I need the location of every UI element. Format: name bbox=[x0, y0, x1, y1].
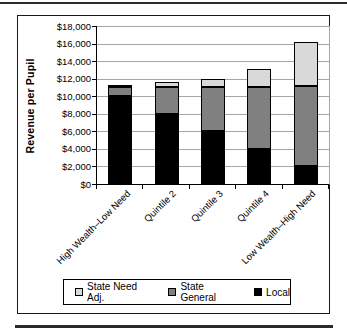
bar-segment-state-general-quintile-4 bbox=[247, 87, 271, 149]
legend-item-state-general: State General bbox=[168, 281, 242, 303]
y-tick-mark bbox=[92, 149, 96, 150]
y-tick-label: $0 bbox=[31, 179, 91, 190]
y-tick-mark bbox=[92, 79, 96, 80]
x-tick-mark bbox=[235, 185, 236, 189]
bar-segment-state-general-low-wealth-high-need bbox=[294, 86, 318, 166]
x-category-label-quintile-3: Quintile 3 bbox=[189, 188, 225, 224]
y-tick-label: $6,000 bbox=[31, 126, 91, 137]
y-tick-mark bbox=[92, 26, 96, 27]
x-category-label-quintile-4: Quintile 4 bbox=[235, 188, 271, 224]
bar-segment-state-general-high-wealth-low-need bbox=[108, 87, 132, 97]
x-category-label-high-wealth-low-need: High Wealth–Low Need bbox=[54, 188, 132, 266]
top-rule bbox=[0, 2, 347, 4]
legend-item-local: Local bbox=[254, 287, 290, 298]
y-tick-label: $16,000 bbox=[31, 38, 91, 49]
bar-segment-local-quintile-3 bbox=[201, 131, 225, 184]
bar-segment-local-low-wealth-high-need bbox=[294, 166, 318, 184]
x-tick-mark bbox=[142, 185, 143, 189]
bar-segment-state-general-quintile-3 bbox=[201, 87, 225, 132]
bar-segment-state-need-adj-high-wealth-low-need bbox=[108, 85, 132, 87]
bar-segment-state-need-adj-quintile-4 bbox=[247, 69, 271, 87]
local-swatch-icon bbox=[254, 288, 262, 296]
figure-page: Revenue per Pupil State Need Adj. State … bbox=[0, 0, 347, 336]
y-tick-mark bbox=[92, 96, 96, 97]
bar-segment-local-quintile-2 bbox=[155, 114, 179, 184]
gridline bbox=[97, 26, 329, 27]
x-category-label-quintile-2: Quintile 2 bbox=[142, 188, 178, 224]
bar-segment-state-need-adj-low-wealth-high-need bbox=[294, 42, 318, 86]
y-tick-label: $10,000 bbox=[31, 91, 91, 102]
y-tick-label: $4,000 bbox=[31, 143, 91, 154]
legend-label: State Need Adj. bbox=[87, 281, 156, 303]
y-tick-label: $2,000 bbox=[31, 161, 91, 172]
legend: State Need Adj. State General Local bbox=[63, 279, 291, 305]
y-tick-label: $14,000 bbox=[31, 56, 91, 67]
bottom-rule bbox=[15, 325, 333, 328]
bar-segment-state-need-adj-quintile-2 bbox=[155, 82, 179, 86]
x-tick-mark bbox=[328, 185, 329, 189]
bar-segment-state-need-adj-quintile-3 bbox=[201, 79, 225, 87]
y-tick-label: $18,000 bbox=[31, 21, 91, 32]
bar-segment-state-general-quintile-2 bbox=[155, 87, 179, 114]
y-tick-mark bbox=[92, 131, 96, 132]
plot-area bbox=[96, 26, 330, 185]
y-tick-label: $8,000 bbox=[31, 108, 91, 119]
y-tick-label: $12,000 bbox=[31, 73, 91, 84]
x-tick-mark bbox=[189, 185, 190, 189]
bar-segment-local-high-wealth-low-need bbox=[108, 96, 132, 184]
chart-frame: Revenue per Pupil State Need Adj. State … bbox=[17, 15, 330, 314]
y-tick-mark bbox=[92, 61, 96, 62]
legend-label: Local bbox=[266, 287, 290, 298]
bar-segment-local-quintile-4 bbox=[247, 149, 271, 184]
state-general-swatch-icon bbox=[168, 288, 176, 296]
x-tick-mark bbox=[96, 185, 97, 189]
y-tick-mark bbox=[92, 44, 96, 45]
legend-item-state-need-adj: State Need Adj. bbox=[75, 281, 156, 303]
y-tick-mark bbox=[92, 114, 96, 115]
state-need-adj-swatch-icon bbox=[75, 288, 83, 296]
x-tick-mark bbox=[282, 185, 283, 189]
y-tick-mark bbox=[92, 166, 96, 167]
legend-label: State General bbox=[180, 281, 242, 303]
